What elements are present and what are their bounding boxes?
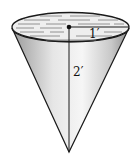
cone-body [12, 28, 129, 152]
center-point [67, 25, 72, 30]
cone-diagram [0, 0, 136, 157]
radius-label: 1′ [89, 28, 99, 40]
height-label: 2′ [73, 66, 83, 78]
